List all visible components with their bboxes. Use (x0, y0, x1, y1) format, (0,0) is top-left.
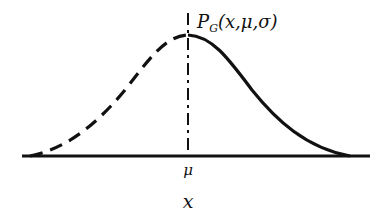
gaussian-diagram: PG(x,μ,σ) μ x (0, 0, 387, 217)
gaussian-right-half-solid (188, 35, 350, 156)
curve-label: PG(x,μ,σ) (196, 11, 278, 35)
curve-label-sub: G (209, 22, 218, 35)
curve-label-args: (x,μ,σ) (218, 11, 278, 32)
x-axis-label: x (183, 190, 194, 212)
mean-tick-label: μ (183, 161, 193, 179)
gaussian-left-half-dashed (30, 35, 188, 156)
curve-label-main: P (196, 11, 210, 32)
